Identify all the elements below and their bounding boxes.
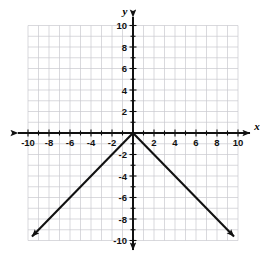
y-tick-label--4: -4 [119, 171, 128, 182]
y-tick-label--6: -6 [119, 192, 127, 203]
y-tick-label-2: 2 [122, 106, 127, 117]
coordinate-plane-graph: -10 -8 -6 -4 -2 2 4 6 8 10 10 8 6 4 2 -2… [0, 0, 268, 259]
y-tick-label-10: 10 [116, 20, 127, 31]
x-tick-label--8: -8 [45, 137, 53, 148]
y-axis-label: y [121, 5, 128, 17]
graph-svg: -10 -8 -6 -4 -2 2 4 6 8 10 10 8 6 4 2 -2… [0, 0, 268, 259]
x-tick-label-4: 4 [172, 137, 178, 148]
x-axis-label: x [253, 120, 260, 132]
x-tick-label-6: 6 [193, 137, 198, 148]
y-tick-label--8: -8 [119, 214, 127, 225]
x-tick-label--2: -2 [108, 137, 116, 148]
y-tick-label-4: 4 [122, 85, 128, 96]
x-tick-label--6: -6 [66, 137, 74, 148]
x-tick-label-2: 2 [151, 137, 156, 148]
y-tick-label--2: -2 [119, 149, 127, 160]
y-tick-label-6: 6 [122, 63, 127, 74]
x-tick-label-8: 8 [214, 137, 219, 148]
x-tick-label--10: -10 [21, 137, 35, 148]
x-tick-label-10: 10 [233, 137, 244, 148]
y-tick-label--10: -10 [113, 235, 127, 246]
y-tick-label-8: 8 [122, 42, 127, 53]
x-tick-label--4: -4 [87, 137, 96, 148]
